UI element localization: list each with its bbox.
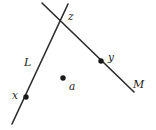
geometry-diagram: L M z y x a bbox=[0, 0, 156, 130]
line-label-L: L bbox=[24, 57, 31, 68]
line-L bbox=[12, 4, 68, 124]
point-label-z: z bbox=[68, 11, 74, 22]
line-M bbox=[42, 3, 134, 92]
point-dot-y bbox=[98, 58, 103, 63]
point-label-a: a bbox=[69, 81, 75, 92]
point-dot-x bbox=[23, 94, 28, 99]
point-label-y: y bbox=[108, 52, 114, 63]
point-label-x: x bbox=[12, 90, 18, 101]
point-dot-a bbox=[60, 75, 65, 80]
line-label-M: M bbox=[133, 79, 144, 90]
